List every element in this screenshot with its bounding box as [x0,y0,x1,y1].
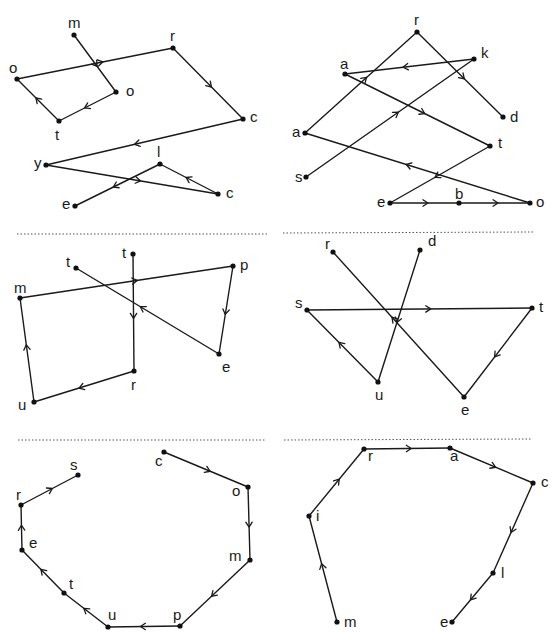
path-segment [20,298,34,402]
path-segment [345,74,490,146]
path-segment [173,48,243,119]
letter-label: t [122,244,127,261]
letter-point [75,472,80,477]
letter-point [490,570,495,575]
letter-label: t [69,575,74,592]
letter-label: c [541,473,549,490]
letter-label: r [16,486,21,503]
path-segment [219,266,233,354]
letter-label: a [450,447,459,464]
path-segment [34,371,134,402]
path-segment [417,32,503,117]
letter-label: p [240,256,248,273]
letter-label: m [344,613,357,630]
letter-label: b [455,185,463,202]
path-segment [452,573,493,622]
letter-label: e [62,195,70,212]
letter-point [414,29,419,34]
path-segment [309,449,364,516]
path-segment [378,250,420,382]
letter-label: r [131,376,136,393]
letter-point [56,118,61,123]
letter-point [529,305,534,310]
path-segment [46,119,243,165]
letter-label: e [377,193,385,210]
letter-point [375,379,380,384]
letter-point [216,351,221,356]
letter-point [417,247,422,252]
letter-label: c [155,452,163,469]
letter-label: u [108,606,116,623]
letter-point [303,174,308,179]
letter-label: e [29,534,37,551]
letter-label: e [222,358,230,375]
letter-point [157,161,162,166]
letter-label: o [9,59,17,76]
letter-label: o [536,193,544,210]
path-segment [133,254,134,371]
letter-label: p [173,606,181,623]
letter-point [113,89,118,94]
letter-point [361,446,366,451]
letter-point [73,265,78,270]
letter-point [170,45,175,50]
path-segment [248,487,250,560]
puzzle-skateboard: skateboard [292,11,544,210]
letter-label: r [368,447,373,464]
puzzle-duster: duster [295,232,544,418]
path-segment [59,92,116,121]
letter-point [500,114,505,119]
letter-label: d [510,108,518,125]
letter-point [306,513,311,518]
letter-point [43,162,48,167]
connect-the-letters-diagram: motorcycleskateboardtrumpetdustercompute… [0,0,559,636]
letter-label: m [14,279,27,296]
letter-point [14,76,19,81]
path-segment [305,133,530,203]
letter-label: c [226,184,234,201]
letter-label: l [501,564,504,581]
letter-point [330,249,335,254]
path-segment [108,626,180,627]
path-segment [46,165,218,194]
letter-label: d [428,232,436,249]
letter-point [387,200,392,205]
puzzle-trumpet: trumpet [14,244,248,413]
path-segment [21,505,22,550]
letter-label: r [170,27,175,44]
path-segment [21,475,78,505]
letter-point [302,130,307,135]
path-segment [17,48,173,79]
letter-point [230,263,235,268]
letter-label: s [295,294,303,311]
letter-point [17,295,22,300]
letter-point [245,484,250,489]
letter-point [449,619,454,624]
path-segment [22,550,64,593]
letter-point [61,590,66,595]
puzzle-computers: computers [16,449,253,629]
letter-point [240,116,245,121]
letter-point [18,502,23,507]
letter-point [71,32,76,37]
path-segment [493,483,533,573]
path-segment [364,448,450,449]
letter-label: m [68,14,81,31]
letter-point [471,56,476,61]
letter-label: i [316,507,319,524]
letter-label: t [498,134,503,151]
letter-label: s [295,168,303,185]
letter-label: c [250,108,258,125]
letter-point [131,368,136,373]
path-segment [75,164,160,206]
letter-label: t [66,253,71,270]
letter-label: u [18,396,26,413]
path-segment [305,32,417,133]
letter-label: a [340,55,349,72]
path-segment [309,516,337,622]
letter-point [130,251,135,256]
letter-label: k [481,44,489,61]
letter-label: t [539,298,544,315]
letter-label: y [34,154,42,171]
path-segment [17,79,59,121]
